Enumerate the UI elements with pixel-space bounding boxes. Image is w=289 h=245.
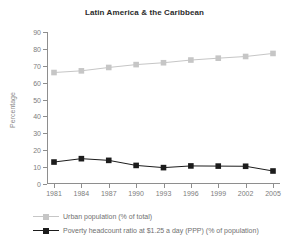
x-tick-mark	[164, 184, 165, 188]
x-tick-mark	[136, 184, 137, 188]
y-tick-label: 90	[33, 29, 41, 36]
y-axis-title-label: Percentage	[9, 70, 16, 150]
data-point-marker	[79, 156, 85, 162]
x-tick-mark	[246, 184, 247, 188]
y-tick-label: 0	[37, 181, 41, 188]
data-point-marker	[51, 70, 57, 76]
y-tick-label: 70	[33, 62, 41, 69]
data-point-marker	[188, 57, 194, 63]
data-point-marker	[215, 163, 221, 169]
x-tick-label: 1981	[46, 190, 62, 197]
y-tick-label: 60	[33, 79, 41, 86]
y-tick-label: 30	[33, 130, 41, 137]
series-2	[51, 156, 276, 174]
legend-marker-icon	[43, 214, 49, 220]
plot-area: 0102030405060708090 19811984198719901993…	[47, 32, 280, 184]
data-point-marker	[161, 165, 167, 171]
x-tick-mark	[109, 184, 110, 188]
y-tick-label: 80	[33, 45, 41, 52]
x-tick-label: 1993	[156, 190, 172, 197]
legend-marker-icon	[43, 228, 49, 234]
data-point-marker	[106, 65, 112, 71]
chart-legend: Urban population (% of total)Poverty hea…	[33, 212, 259, 235]
data-point-marker	[79, 68, 85, 74]
series-plot	[47, 32, 280, 184]
data-point-marker	[161, 60, 167, 66]
legend-item[interactable]: Urban population (% of total)	[33, 212, 259, 221]
chart-title: Latin America & the Caribbean	[0, 8, 289, 17]
x-tick-mark	[81, 184, 82, 188]
x-tick-label: 2002	[238, 190, 254, 197]
x-tick-label: 1984	[74, 190, 90, 197]
data-point-marker	[106, 158, 112, 164]
data-point-marker	[215, 55, 221, 61]
y-tick-mark	[43, 184, 47, 185]
series-1	[51, 51, 276, 76]
data-point-marker	[188, 163, 194, 169]
data-point-marker	[243, 54, 249, 60]
legend-label: Poverty headcount ratio at $1.25 a day (…	[59, 227, 259, 234]
x-tick-label: 1996	[183, 190, 199, 197]
data-point-marker	[270, 51, 276, 57]
data-point-marker	[133, 62, 139, 68]
x-tick-label: 2005	[265, 190, 281, 197]
y-tick-label: 20	[33, 147, 41, 154]
x-tick-mark	[54, 184, 55, 188]
legend-swatch-icon	[33, 226, 59, 235]
x-tick-mark	[218, 184, 219, 188]
legend-label: Urban population (% of total)	[59, 213, 152, 220]
data-point-marker	[51, 159, 57, 165]
y-tick-label: 10	[33, 164, 41, 171]
data-point-marker	[270, 168, 276, 174]
x-tick-mark	[273, 184, 274, 188]
y-axis-title: Percentage	[9, 0, 16, 70]
data-point-marker	[243, 163, 249, 169]
x-tick-label: 1999	[210, 190, 226, 197]
chart-container: Latin America & the Caribbean Percentage…	[0, 0, 289, 245]
legend-item[interactable]: Poverty headcount ratio at $1.25 a day (…	[33, 226, 259, 235]
y-tick-label: 40	[33, 113, 41, 120]
legend-swatch-icon	[33, 212, 59, 221]
x-tick-mark	[191, 184, 192, 188]
y-tick-label: 50	[33, 96, 41, 103]
x-tick-label: 1987	[101, 190, 117, 197]
x-tick-label: 1990	[128, 190, 144, 197]
data-point-marker	[133, 163, 139, 169]
